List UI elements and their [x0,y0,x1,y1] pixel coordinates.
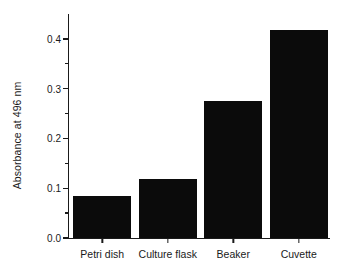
y-axis-title: Absorbance at 496 nm [6,0,28,271]
x-axis-tick [102,238,103,243]
x-axis-tick-label: Cuvette [281,248,317,260]
y-axis-tick-label: 0.3 [47,83,61,94]
y-axis-tick [63,88,68,89]
y-axis-tick [63,188,68,189]
bar-chart: Absorbance at 496 nm 0.00.10.20.30.4Petr… [0,0,348,271]
y-axis-line [68,14,69,238]
x-axis-tick [298,238,299,243]
x-axis-tick-label: Beaker [217,248,250,260]
x-axis-tick-label: Petri dish [80,248,124,260]
bar [204,101,262,238]
y-axis-tick [63,237,68,238]
x-axis-tick-label: Culture flask [139,248,197,260]
y-axis-minor-tick [65,113,68,114]
y-axis-tick [63,138,68,139]
x-axis-tick [167,238,168,243]
y-axis-tick [63,38,68,39]
bar [270,30,328,238]
bar [73,196,131,238]
x-axis-line [68,238,330,239]
x-axis-tick [233,238,234,243]
y-axis-minor-tick [65,63,68,64]
y-axis-tick-label: 0.1 [47,183,61,194]
y-axis-title-container: Absorbance at 496 nm [6,0,28,245]
plot-area: 0.00.10.20.30.4Petri dishCulture flaskBe… [68,14,330,238]
y-axis-tick-label: 0.4 [47,33,61,44]
y-axis-tick-label: 0.2 [47,133,61,144]
y-axis-minor-tick [65,212,68,213]
bar [139,179,197,238]
y-axis-minor-tick [65,163,68,164]
y-axis-tick-label: 0.0 [47,233,61,244]
